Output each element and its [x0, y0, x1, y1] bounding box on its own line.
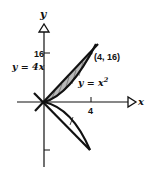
parabola-label: y = x2 — [77, 76, 109, 88]
intersection-point — [90, 52, 93, 55]
y-axis-label: y — [39, 8, 48, 21]
region-diagram: y x 16 4 y = 4x (4, 16) y = x2 — [0, 0, 147, 174]
x-tick-label: 4 — [88, 106, 93, 116]
intersection-label: (4, 16) — [94, 52, 120, 62]
x-axis-label: x — [137, 96, 145, 107]
y-tick-label: 16 — [34, 49, 44, 59]
x-axis-arrow-icon — [128, 97, 136, 107]
parabola-label-base: y = x — [77, 77, 104, 88]
y-axis-arrow-icon — [39, 24, 49, 32]
line-label: y = 4x — [11, 61, 45, 72]
parabola-label-exponent: 2 — [103, 76, 109, 84]
